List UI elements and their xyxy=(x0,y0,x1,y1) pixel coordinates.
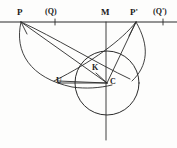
geometry-canvas xyxy=(0,0,177,148)
point-label-u: U xyxy=(56,77,62,85)
point-label-m: M xyxy=(101,8,110,17)
point-label-q-left: (Q) xyxy=(45,8,57,16)
segment-p-to-c xyxy=(21,22,107,83)
point-label-p-prime: P' xyxy=(130,8,138,17)
point-label-k: K xyxy=(92,64,98,72)
arc-from-pprime-right xyxy=(132,22,145,81)
point-label-p: P xyxy=(17,8,23,17)
geometry-figure: P (Q) M P' (Q') K C U xyxy=(0,0,177,148)
point-label-c: C xyxy=(110,78,116,86)
point-label-q-right: (Q') xyxy=(153,8,167,16)
arc-from-pprime-to-left xyxy=(54,22,136,81)
arc-from-p-to-right xyxy=(21,22,130,79)
segment-k-to-c xyxy=(96,73,107,83)
